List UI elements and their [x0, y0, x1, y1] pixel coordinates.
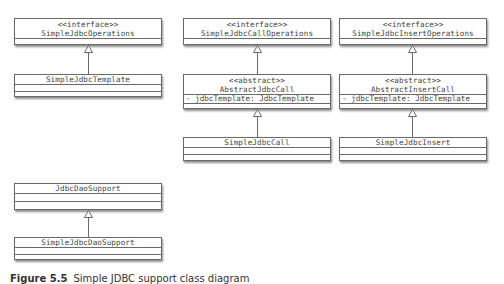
attribute-jdbc-template: - jdbcTemplate: JdbcTemplate — [340, 95, 486, 104]
class-name: SimpleJdbcOperations — [15, 29, 161, 38]
operations-compartment — [15, 255, 161, 261]
stereotype-label: <<abstract>> — [340, 76, 486, 85]
generalization-line — [257, 116, 258, 137]
class-name: JdbcDaoSupport — [15, 184, 161, 193]
class-header: JdbcDaoSupport — [15, 184, 161, 194]
realization-line — [412, 52, 413, 74]
class-name: SimpleJdbcTemplate — [15, 75, 161, 84]
class-name: SimpleJdbcInsertOperations — [340, 29, 486, 38]
caption-text: Simple JDBC support class diagram — [73, 273, 249, 284]
class-jdbc-dao-support: JdbcDaoSupport — [14, 183, 162, 210]
operations-compartment — [15, 92, 161, 98]
class-header: <<abstract>> AbstractJdbcCall — [184, 75, 330, 95]
attributes-compartment — [15, 85, 161, 92]
class-header: SimpleJdbcInsert — [340, 138, 486, 148]
class-simple-jdbc-operations: <<interface>> SimpleJdbcOperations — [14, 18, 162, 45]
figure-caption: Figure 5.5Simple JDBC support class diag… — [10, 273, 249, 284]
stereotype-label: <<interface>> — [340, 20, 486, 29]
generalization-line — [88, 217, 89, 237]
class-name: SimpleJdbcInsert — [340, 138, 486, 147]
class-header: <<interface>> SimpleJdbcCallOperations — [184, 19, 330, 39]
realization-line — [257, 52, 258, 74]
class-simple-jdbc-dao-support: SimpleJdbcDaoSupport — [14, 237, 162, 260]
generalization-line — [412, 116, 413, 137]
class-simple-jdbc-insert: SimpleJdbcInsert — [339, 137, 487, 161]
realization-line — [88, 52, 89, 74]
class-abstract-jdbc-call: <<abstract>> AbstractJdbcCall - jdbcTemp… — [183, 74, 331, 109]
stereotype-label: <<interface>> — [15, 20, 161, 29]
figure-number: Figure 5.5 — [10, 273, 67, 284]
operations-compartment — [15, 202, 161, 208]
class-header: SimpleJdbcDaoSupport — [15, 238, 161, 248]
class-header: SimpleJdbcCall — [184, 138, 330, 148]
class-simple-jdbc-call-operations: <<interface>> SimpleJdbcCallOperations — [183, 18, 331, 45]
class-header: <<abstract>> AbstractInsertCall — [340, 75, 486, 95]
class-abstract-insert-call: <<abstract>> AbstractInsertCall - jdbcTe… — [339, 74, 487, 109]
stereotype-label: <<abstract>> — [184, 76, 330, 85]
stereotype-label: <<interface>> — [184, 20, 330, 29]
attributes-compartment — [15, 194, 161, 202]
attribute-jdbc-template: - jdbcTemplate: JdbcTemplate — [184, 95, 330, 104]
class-header: <<interface>> SimpleJdbcInsertOperations — [340, 19, 486, 39]
class-name: SimpleJdbcCallOperations — [184, 29, 330, 38]
attributes-compartment — [15, 248, 161, 255]
class-name: SimpleJdbcDaoSupport — [15, 238, 161, 247]
class-name: SimpleJdbcCall — [184, 138, 330, 147]
class-header: <<interface>> SimpleJdbcOperations — [15, 19, 161, 39]
attributes-compartment — [340, 148, 486, 155]
class-simple-jdbc-template: SimpleJdbcTemplate — [14, 74, 162, 97]
class-name: AbstractJdbcCall — [184, 85, 330, 94]
operations-compartment — [340, 155, 486, 161]
class-simple-jdbc-insert-operations: <<interface>> SimpleJdbcInsertOperations — [339, 18, 487, 45]
class-header: SimpleJdbcTemplate — [15, 75, 161, 85]
attributes-compartment — [184, 148, 330, 155]
class-simple-jdbc-call: SimpleJdbcCall — [183, 137, 331, 161]
class-name: AbstractInsertCall — [340, 85, 486, 94]
operations-compartment — [184, 155, 330, 161]
